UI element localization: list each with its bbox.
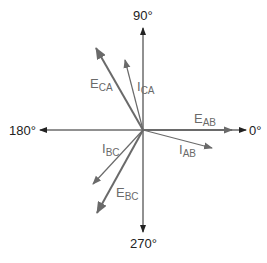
label-i-ca: ICA (137, 80, 155, 96)
axis-label-90: 90° (133, 9, 153, 22)
phasor-i-ab (143, 130, 212, 148)
axis-label-0: 0° (249, 124, 261, 137)
label-e-ab: EAB (194, 112, 216, 128)
label-i-bc: IBC (102, 142, 120, 158)
axis-label-270: 270° (130, 237, 157, 250)
axis-label-180: 180° (9, 124, 36, 137)
phasor-diagram-canvas (0, 0, 267, 263)
label-i-ab: IAB (179, 143, 196, 159)
label-e-ca: ECA (90, 77, 113, 93)
label-e-bc: EBC (116, 186, 139, 202)
